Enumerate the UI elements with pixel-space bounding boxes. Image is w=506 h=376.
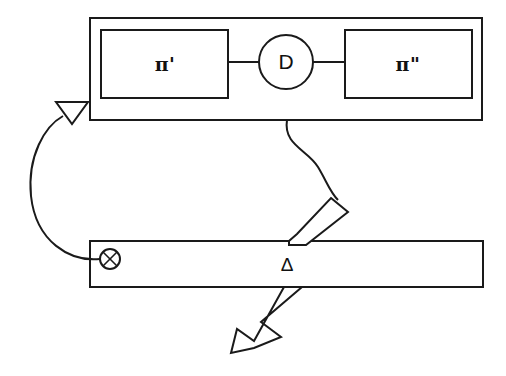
feedback-curve-path: [30, 116, 100, 259]
feedback-arrowhead-icon: [56, 102, 88, 124]
block-label-pi-prime: π': [155, 53, 176, 75]
bar-label-delta: Δ: [281, 254, 294, 276]
output-arrow-head: [231, 287, 302, 353]
node-label-d: D: [278, 50, 293, 74]
output-arrow-shaft-upper: [289, 198, 348, 245]
diagram-svg: [0, 0, 506, 376]
wavy-connector-path: [287, 120, 338, 200]
diagram-canvas: π' π" D Δ: [0, 0, 506, 376]
block-label-pi-double-prime: π": [396, 53, 421, 75]
